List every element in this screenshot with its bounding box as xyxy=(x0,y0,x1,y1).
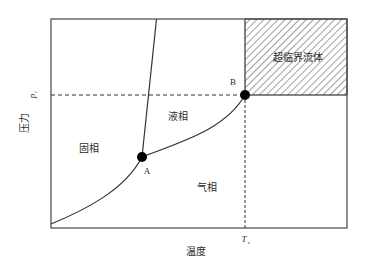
svg-text:c: c xyxy=(248,240,251,245)
svg-text:c: c xyxy=(33,90,38,93)
svg-text:T: T xyxy=(241,234,247,244)
supercritical-fluid-label: 超临界流体 xyxy=(273,51,323,63)
y-axis-label: 压力 xyxy=(18,113,30,133)
sublimation-curve xyxy=(51,157,142,224)
melting-curve xyxy=(142,19,157,157)
phase-diagram: 超临界流体 A B 固相 液相 气相 p c T c 压力 温度 xyxy=(0,0,365,268)
vaporization-curve xyxy=(142,95,245,157)
liquid-phase-label: 液相 xyxy=(168,110,188,122)
x-axis-label: 温度 xyxy=(186,245,206,257)
critical-point-label: B xyxy=(230,77,236,87)
svg-text:p: p xyxy=(27,93,37,99)
gas-phase-label: 气相 xyxy=(197,181,217,193)
triple-point-marker xyxy=(137,152,147,162)
critical-pressure-label: p c xyxy=(27,90,38,99)
critical-point-marker xyxy=(240,90,250,100)
supercritical-region: 超临界流体 xyxy=(245,19,347,95)
solid-phase-label: 固相 xyxy=(79,142,99,154)
triple-point-label: A xyxy=(144,166,151,176)
critical-temperature-label: T c xyxy=(241,234,251,245)
